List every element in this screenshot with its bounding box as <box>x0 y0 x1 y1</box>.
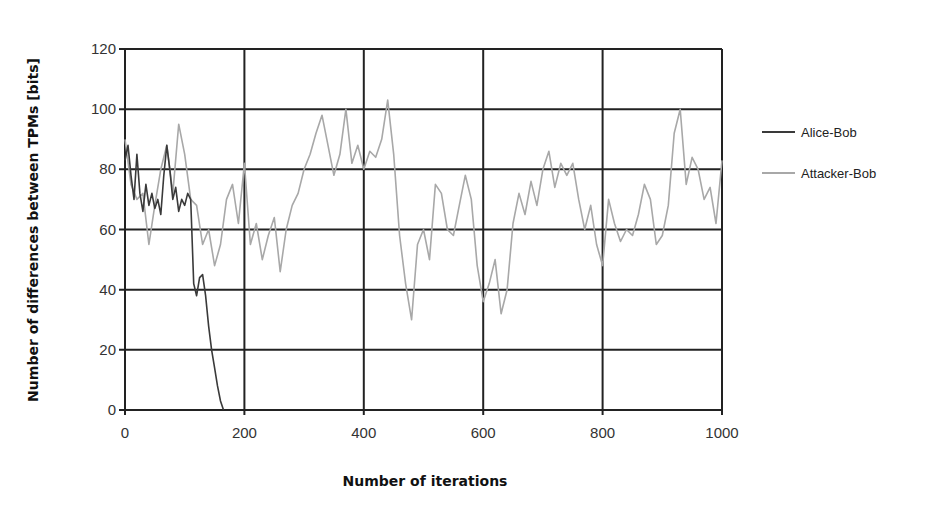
y-tick-label: 40 <box>99 281 116 298</box>
y-tick-label: 60 <box>99 221 116 238</box>
y-tick-label: 80 <box>99 160 116 177</box>
y-tick-label: 100 <box>91 100 116 117</box>
legend-label-alice-bob: Alice-Bob <box>801 125 857 140</box>
x-tick-label: 600 <box>471 424 496 441</box>
x-tick-label: 1000 <box>705 424 738 441</box>
y-tick-label: 0 <box>108 401 116 418</box>
x-axis-title: Number of iterations <box>343 473 508 489</box>
legend: Alice-Bob Attacker-Bob <box>762 125 876 181</box>
legend-label-attacker-bob: Attacker-Bob <box>801 166 876 181</box>
line-chart: 020406080100120 02004006008001000 Number… <box>0 0 937 512</box>
x-tick-label: 800 <box>590 424 615 441</box>
y-axis-title: Number of differences between TPMs [bits… <box>25 58 41 402</box>
y-axis-ticks: 020406080100120 <box>91 40 116 418</box>
data-series <box>125 100 722 410</box>
series-line-attacker-bob <box>125 100 722 320</box>
x-tick-label: 0 <box>121 424 129 441</box>
x-axis-ticks: 02004006008001000 <box>121 424 739 441</box>
y-tick-label: 20 <box>99 341 116 358</box>
x-tick-label: 400 <box>351 424 376 441</box>
x-tick-label: 200 <box>232 424 257 441</box>
y-tick-label: 120 <box>91 40 116 57</box>
